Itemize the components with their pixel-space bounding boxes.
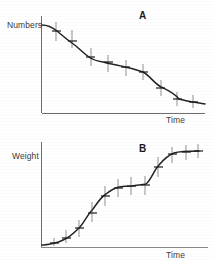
panel-b-y-axis-label: Weight xyxy=(12,151,39,161)
panel-a-error-bars xyxy=(56,22,193,108)
panel-b-x-axis-label: Time xyxy=(166,250,185,260)
chart-panel-a: Numbers Time A xyxy=(0,0,213,130)
panel-a-svg: Numbers Time A xyxy=(0,0,213,130)
panel-a-y-axis-label: Numbers xyxy=(7,20,42,30)
panel-a-x-axis-label: Time xyxy=(166,115,185,125)
panel-a-data-markers xyxy=(52,31,198,102)
figure-two-panel-charts: Numbers Time A xyxy=(0,0,213,260)
panel-a-curve xyxy=(42,25,205,104)
panel-b-letter: B xyxy=(139,143,146,154)
panel-b-svg: Weight Time B xyxy=(0,130,213,260)
panel-a-letter: A xyxy=(139,10,146,21)
chart-panel-b: Weight Time B xyxy=(0,130,213,260)
panel-b-data-markers xyxy=(50,151,203,243)
